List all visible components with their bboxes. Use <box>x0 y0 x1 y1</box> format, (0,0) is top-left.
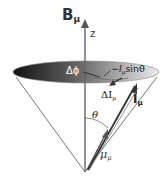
theta-label: θ <box>92 110 98 120</box>
field-label: Bμ <box>62 8 80 24</box>
perp-component-label: −Iμsinθ <box>111 64 145 76</box>
diagram-canvas <box>0 0 168 189</box>
cone-left-edge <box>16 77 85 172</box>
mu-label: μμ <box>100 149 111 162</box>
z-axis-label: z <box>90 29 95 39</box>
I-mu-label: Iμ <box>133 93 143 106</box>
precession-diagram: Bμ z Δϕ −Iμsinθ ΔIμ Iμ θ μμ <box>0 0 168 189</box>
mu-arrowhead-icon <box>102 129 108 139</box>
delta-I-label: ΔIμ <box>101 90 116 101</box>
delta-phi-label: Δϕ <box>66 66 79 76</box>
z-axis-arrowhead-icon <box>81 19 89 28</box>
